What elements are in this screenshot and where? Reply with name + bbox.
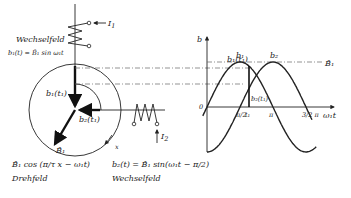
annotation-b1-t1: b₁(t₁) [227, 55, 248, 64]
wechselfeld2-caption: Wechselfeld [112, 174, 161, 183]
drehfeld-caption: Drehfeld [11, 174, 48, 183]
vector-B1 [55, 110, 75, 144]
drehfeld-equation: B̂₁ cos (π/τ x − ω₁t) [11, 160, 90, 169]
x-axis-label: ω₁t [323, 111, 337, 120]
rotation-arrow-icon [105, 135, 112, 144]
coil1-winding [68, 23, 88, 46]
x-tick-label: π [268, 111, 274, 119]
diagram-canvas: x I1 Wechselfeld b₁(t) = B̂₁ sin ω₁t b₁(… [0, 0, 351, 198]
y-axis-label: b [197, 35, 202, 44]
origin-label: 0 [199, 103, 203, 111]
x-tick-label: 3/2 π [302, 111, 320, 119]
x-tick-label: t₁ [245, 111, 250, 119]
wechselfeld2-equation: b₂(t) = B̂₁ sin(ω₁t − π/2) [112, 160, 209, 169]
vector-B1-label: B̂₁ [55, 146, 65, 155]
rotating-field-diagram: x I1 Wechselfeld b₁(t) = B̂₁ sin ω₁t b₁(… [0, 0, 351, 198]
coil2-terminal-left [132, 122, 136, 126]
series-b2-label: b₂ [270, 51, 278, 60]
annotation-b2-t1: b₂(t₁) [251, 95, 269, 103]
angle-arc [75, 84, 101, 110]
coil1-current-label: I1 [107, 19, 115, 30]
coil2-winding [134, 104, 157, 123]
amplitude-label: B̂₁ [324, 59, 334, 68]
coil2-current-label: I2 [160, 132, 168, 143]
coil1-field-type: Wechselfeld [16, 35, 65, 44]
coil1-equation: b₁(t) = B̂₁ sin ω₁t [8, 49, 64, 57]
coil1-terminal-bottom [87, 44, 91, 48]
vector-b2-label: b₂(t₁) [79, 115, 100, 124]
coil1-terminal-top [87, 21, 91, 25]
waveform-chart: b ω₁t 0 B̂₁ b₁ b₂ b₁(t₁) b₂(t₁) π/2t₁π3/… [197, 35, 337, 152]
angle-label-x: x [115, 143, 119, 151]
coil2-terminal-right [155, 122, 159, 126]
vector-b1-label: b₁(t₁) [46, 89, 67, 98]
